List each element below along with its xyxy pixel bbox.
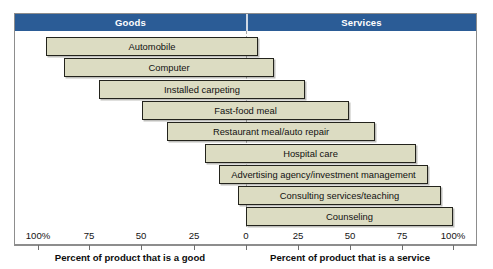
axis-tick-label: 50 (345, 230, 356, 241)
axis-tick (194, 245, 195, 250)
axis-tick (89, 245, 90, 250)
axis-tick (246, 245, 247, 250)
axis-tick (453, 245, 454, 250)
caption-percent-service: Percent of product that is a service (270, 252, 430, 263)
axis-tick-label: 100% (441, 230, 466, 241)
bar-row: Computer (64, 58, 274, 77)
bar-label: Consulting services/teaching (280, 190, 399, 201)
goods-services-continuum-figure: Goods Services AutomobileComputerInstall… (0, 0, 493, 269)
header-label-goods: Goods (15, 14, 246, 31)
bar-row: Consulting services/teaching (238, 186, 441, 205)
axis-tick-label: 75 (397, 230, 408, 241)
header-band: Goods Services (15, 14, 476, 31)
bar-label: Counseling (326, 211, 373, 222)
axis-tick-label: 25 (189, 230, 200, 241)
bar-label: Hospital care (283, 148, 338, 159)
axis-tick (298, 245, 299, 250)
bar-row: Restaurant meal/auto repair (167, 122, 375, 141)
axis-tick-label: 50 (136, 230, 147, 241)
bar-row: Installed carpeting (99, 80, 305, 99)
bar-label: Computer (148, 62, 189, 73)
caption-percent-good: Percent of product that is a good (55, 252, 205, 263)
bar-row: Fast-food meal (142, 101, 349, 120)
bar-label: Restaurant meal/auto repair (213, 126, 329, 137)
axis-tick (141, 245, 142, 250)
axis-tick (38, 245, 39, 250)
axis-tick-label: 75 (84, 230, 95, 241)
bar-label: Installed carpeting (164, 84, 240, 95)
axis-tick-label: 100% (26, 230, 51, 241)
axis-tick-label: 0 (243, 230, 248, 241)
bar-label: Fast-food meal (214, 105, 277, 116)
axis-tick (402, 245, 403, 250)
bar-row: Advertising agency/investment management (219, 165, 428, 184)
axis-tick-label: 25 (293, 230, 304, 241)
bar-row: Counseling (246, 207, 453, 226)
bar-row: Automobile (46, 37, 258, 56)
bar-label: Automobile (129, 41, 176, 52)
header-label-services: Services (247, 14, 476, 31)
bar-row: Hospital care (205, 144, 416, 163)
x-axis: 100%7550250255075100% (14, 229, 477, 246)
plot-area: AutomobileComputerInstalled carpetingFas… (14, 31, 477, 229)
bar-label: Advertising agency/investment management (231, 169, 415, 180)
axis-tick (350, 245, 351, 250)
